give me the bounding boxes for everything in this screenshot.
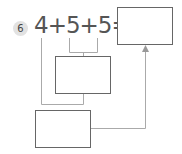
bottom-box[interactable] (35, 110, 91, 148)
expression: 4+5+5= (34, 12, 130, 38)
problem-number-badge: 6 (13, 21, 28, 36)
middle-box[interactable] (55, 56, 111, 94)
arrow-up-icon (142, 45, 149, 52)
answer-box[interactable] (117, 7, 173, 45)
math-problem: 6 4+5+5= (0, 0, 182, 154)
